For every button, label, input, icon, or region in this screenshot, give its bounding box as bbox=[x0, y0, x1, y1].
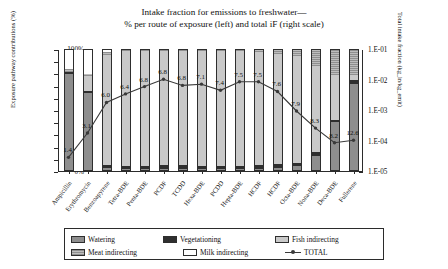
legend-swatch-watering bbox=[71, 236, 85, 243]
legend-label: Meat indirecting bbox=[88, 248, 137, 257]
total-line-series bbox=[59, 50, 363, 172]
total-line-marker bbox=[352, 139, 355, 142]
legend-label: Fish indirecting bbox=[292, 235, 339, 244]
legend-item-total[interactable]: TOTAL bbox=[285, 248, 328, 257]
legend-label: TOTAL bbox=[304, 248, 328, 257]
legend-swatch-meat-indirecting bbox=[71, 249, 85, 256]
y-tick-right-1.E-04: 1.E-04 bbox=[368, 138, 387, 146]
data-label-penta-bde: 6.8 bbox=[139, 76, 148, 84]
data-label-pcdf: 6.8 bbox=[158, 68, 167, 76]
y-tick-right-1.E-05: 1.E-05 bbox=[368, 168, 387, 176]
data-label-octa-bde: 7.9 bbox=[291, 100, 300, 108]
data-label-benzoapyrene: 6.0 bbox=[101, 91, 110, 99]
total-line-marker bbox=[200, 82, 203, 85]
legend-row-2: Meat indirectingMilk indirectingTOTAL bbox=[71, 246, 377, 258]
legend-item-meat-indirecting[interactable]: Meat indirecting bbox=[71, 248, 183, 257]
total-line-marker bbox=[219, 89, 222, 92]
total-line-marker bbox=[124, 92, 127, 95]
total-line-marker bbox=[276, 90, 279, 93]
data-label-erythromycin: 3.1 bbox=[82, 122, 91, 130]
chart-title-line-2: % per route of exposure (left) and total… bbox=[0, 18, 448, 30]
legend-line-marker-icon bbox=[285, 249, 301, 256]
data-label-hepta-bde: 7.5 bbox=[234, 71, 243, 79]
total-line-marker bbox=[105, 101, 108, 104]
y-tick-right-1.E-03: 1.E-03 bbox=[368, 107, 387, 115]
data-label-hcdf: 7.5 bbox=[253, 71, 262, 79]
total-line-marker bbox=[181, 84, 184, 87]
data-label-deca-bde: 8.2 bbox=[329, 132, 338, 140]
plot-area bbox=[58, 50, 362, 172]
data-label-fullerene: 12.6 bbox=[346, 129, 358, 137]
y-tick-right-1.E-01: 1.E-01 bbox=[368, 46, 387, 54]
data-label-ampicillin: 1.4 bbox=[63, 146, 72, 154]
data-label-pcdd: 7.4 bbox=[215, 79, 224, 87]
y-axis-label-left: Exposure pathway contributions (%) bbox=[9, 0, 16, 124]
legend-item-vegetationing[interactable]: Vegetationing bbox=[163, 235, 275, 244]
total-line-marker bbox=[67, 156, 70, 159]
chart-legend: WateringVegetationingFish indirecting Me… bbox=[64, 228, 384, 260]
chart-title: Intake fraction for emissions to freshwa… bbox=[0, 6, 448, 31]
total-line-marker bbox=[333, 141, 336, 144]
y-tick-right-1.E-02: 1.E-02 bbox=[368, 77, 387, 85]
legend-swatch-vegetationing bbox=[163, 236, 177, 243]
legend-label: Milk indirecting bbox=[200, 248, 248, 257]
legend-swatch-fish-indirecting bbox=[275, 236, 289, 243]
tick-mark-left bbox=[54, 172, 58, 173]
total-line-marker bbox=[314, 126, 317, 129]
y-axis-label-right: Total intake fraction (kg_in/kg_emit) bbox=[397, 0, 404, 124]
chart-figure: Intake fraction for emissions to freshwa… bbox=[0, 0, 448, 269]
chart-title-line-1: Intake fraction for emissions to freshwa… bbox=[0, 6, 448, 18]
data-label-nona-bde: 8.3 bbox=[310, 117, 319, 125]
total-line-marker bbox=[143, 85, 146, 88]
legend-item-watering[interactable]: Watering bbox=[71, 235, 163, 244]
data-label-hexa-bde: 7.1 bbox=[196, 73, 205, 81]
legend-item-fish-indirecting[interactable]: Fish indirecting bbox=[275, 235, 339, 244]
data-label-tcdd: 6.8 bbox=[177, 74, 186, 82]
total-line-marker bbox=[162, 78, 165, 81]
legend-label: Watering bbox=[88, 235, 115, 244]
total-line-marker bbox=[295, 109, 298, 112]
data-label-hcdf: 7.6 bbox=[272, 80, 281, 88]
data-label-tetra-bde: 6.4 bbox=[120, 83, 129, 91]
legend-label: Vegetationing bbox=[180, 235, 221, 244]
total-line-marker bbox=[86, 131, 89, 134]
total-line-marker bbox=[257, 80, 260, 83]
legend-row-1: WateringVegetationingFish indirecting bbox=[71, 233, 377, 245]
total-line-marker bbox=[238, 80, 241, 83]
legend-item-milk-indirecting[interactable]: Milk indirecting bbox=[183, 248, 285, 257]
legend-swatch-milk-indirecting bbox=[183, 249, 197, 256]
